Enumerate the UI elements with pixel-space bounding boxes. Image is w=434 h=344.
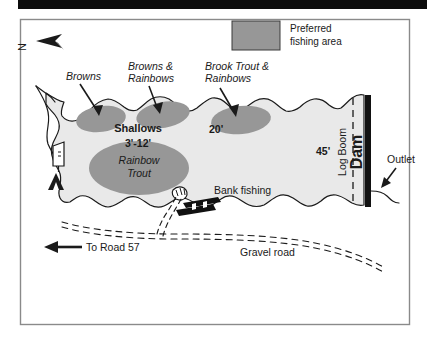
label-dam: Dam	[348, 135, 365, 170]
dam-structure	[365, 95, 371, 207]
label-to-road-57: To Road 57	[86, 241, 140, 253]
boat-ramp-icon	[172, 187, 187, 200]
label-brook-rainbows-line2: Rainbows	[205, 72, 252, 84]
legend-line-2: fishing area	[290, 36, 342, 47]
label-brook-rainbows-line1: Brook Trout &	[205, 60, 269, 72]
legend-line-1: Preferred	[290, 23, 332, 34]
label-gravel-road: Gravel road	[240, 246, 295, 258]
label-browns-rainbows-line1: Browns &	[128, 60, 173, 72]
label-bank-fishing: Bank fishing	[214, 184, 271, 196]
label-rainbow-trout-line1: Rainbow	[119, 154, 161, 166]
map-page: N Preferred fishing area Browns Browns &…	[0, 0, 434, 344]
label-shallows-depth: 3'-12'	[125, 137, 151, 149]
lake-fishing-map: N Preferred fishing area Browns Browns &…	[0, 0, 434, 344]
preferred-fishing-area-swatch	[232, 21, 280, 50]
label-browns: Browns	[66, 70, 102, 82]
compass-north-label: N	[16, 43, 28, 51]
label-browns-rainbows-line2: Rainbows	[128, 72, 175, 84]
label-log-boom: Log Boom	[336, 128, 348, 176]
label-outlet: Outlet	[387, 153, 415, 165]
depth-marker-20: 20'	[209, 123, 223, 135]
label-shallows: Shallows	[114, 122, 162, 134]
label-rainbow-trout-line2: Trout	[127, 167, 152, 179]
depth-marker-45: 45'	[316, 145, 330, 157]
